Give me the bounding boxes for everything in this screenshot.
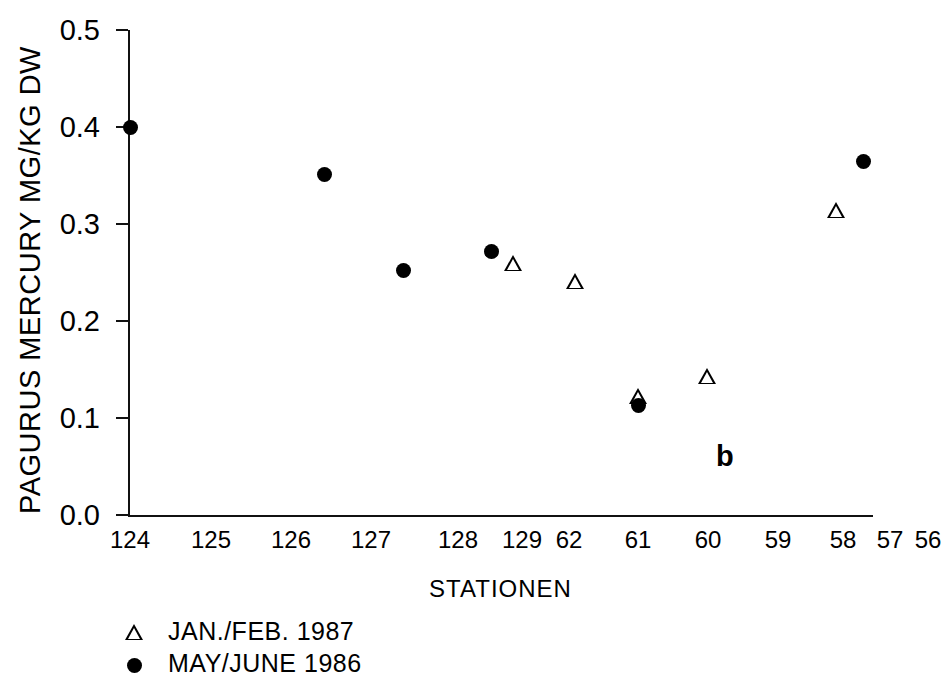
x-axis-title: STATIONEN [128,575,873,603]
y-axis-tick [116,514,128,516]
y-axis-tick [116,417,128,419]
circle-marker-icon [118,648,168,678]
panel-label: b [716,440,734,473]
legend-item: MAY/JUNE 1986 [118,647,518,679]
data-point-marker [698,368,716,384]
triangle-marker-icon-glyph [125,624,143,640]
y-axis-tick-label: 0.5 [60,16,100,45]
x-axis-tick-label: 60 [695,528,722,552]
x-axis-tick-label: 57 [877,528,904,552]
data-point-marker [504,255,522,271]
y-axis-tick [116,223,128,225]
y-axis-tick [116,320,128,322]
circle-marker-icon-glyph [127,658,142,673]
y-axis-tick-label: 0.4 [60,113,100,142]
triangle-marker-icon [118,616,168,646]
chart-legend: JAN./FEB. 1987MAY/JUNE 1986 [118,615,518,679]
plot-area: 0.00.10.20.30.40.5 124125126127128129626… [128,30,873,515]
y-axis-title: PAGURUS MERCURY MG/KG DW [8,10,52,550]
data-point-marker [856,154,871,169]
data-point-marker [631,398,646,413]
x-axis-tick-label: 58 [830,528,857,552]
y-axis-tick [116,29,128,31]
x-axis-tick-label: 61 [625,528,652,552]
y-axis-tick-label: 0.3 [60,210,100,239]
x-axis-tick-label: 124 [110,528,150,552]
x-axis-line [128,515,873,517]
x-axis-tick-label: 56 [915,528,941,552]
x-axis-tick-label: 59 [765,528,792,552]
data-point-marker [317,167,332,182]
x-axis-tick-label: 125 [191,528,231,552]
x-axis-tick-label: 128 [438,528,478,552]
data-point-marker [484,244,499,259]
legend-item-label: MAY/JUNE 1986 [168,649,362,678]
y-axis-tick-label: 0.0 [60,501,100,530]
x-axis-tick-label: 126 [271,528,311,552]
y-axis-line [128,30,130,516]
data-point-marker [396,263,411,278]
x-axis-tick-label: 62 [556,528,583,552]
legend-item: JAN./FEB. 1987 [118,615,518,647]
x-axis-tick-label: 127 [351,528,391,552]
y-axis-tick-label: 0.1 [60,404,100,433]
data-point-marker [827,202,845,218]
legend-item-label: JAN./FEB. 1987 [168,617,354,646]
y-axis-tick-label: 0.2 [60,307,100,336]
data-point-marker [123,120,138,135]
data-point-marker [566,273,584,289]
x-axis-tick-label: 129 [502,528,542,552]
